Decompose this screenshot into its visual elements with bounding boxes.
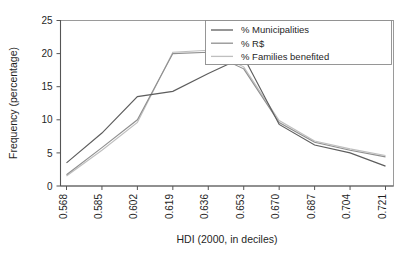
legend-label-0: % Municipalities — [241, 24, 309, 35]
y-tick-label: 10 — [41, 114, 53, 125]
y-tick-label: 5 — [47, 148, 53, 159]
x-tick-label: 0.670 — [270, 194, 281, 219]
x-axis-ticks — [67, 186, 386, 190]
legend-label-2: % Families benefited — [241, 51, 329, 62]
x-tick-label: 0.602 — [128, 194, 139, 219]
legend-label-1: % R$ — [241, 38, 265, 49]
y-axis-ticks — [57, 21, 61, 187]
x-tick-label: 0.687 — [306, 194, 317, 219]
y-tick-label: 25 — [41, 15, 53, 26]
series-line-1 — [67, 52, 386, 174]
y-tick-label: 0 — [47, 181, 53, 192]
y-tick-label: 15 — [41, 81, 53, 92]
y-axis-title: Frequency (percentage) — [7, 47, 19, 159]
chart-canvas: 0510152025 0.5680.5850.6020.6190.6360.65… — [0, 0, 418, 264]
x-axis-title: HDI (2000, in deciles) — [177, 233, 278, 245]
x-tick-label: 0.704 — [341, 194, 352, 219]
x-tick-label: 0.619 — [164, 194, 175, 219]
x-tick-label: 0.636 — [199, 194, 210, 219]
series-line-0 — [67, 57, 386, 166]
line-chart-figure: 0510152025 0.5680.5850.6020.6190.6360.65… — [0, 0, 418, 264]
x-tick-label: 0.721 — [377, 194, 388, 219]
x-axis-tick-labels: 0.5680.5850.6020.6190.6360.6530.6700.687… — [58, 194, 388, 219]
x-tick-label: 0.653 — [235, 194, 246, 219]
data-series-group — [67, 50, 386, 176]
y-tick-label: 20 — [41, 48, 53, 59]
x-tick-label: 0.568 — [58, 194, 69, 219]
x-tick-label: 0.585 — [93, 194, 104, 219]
series-line-2 — [67, 50, 386, 176]
y-axis-tick-labels: 0510152025 — [41, 15, 53, 192]
chart-legend: % Municipalities% R$% Families benefited — [206, 21, 392, 65]
